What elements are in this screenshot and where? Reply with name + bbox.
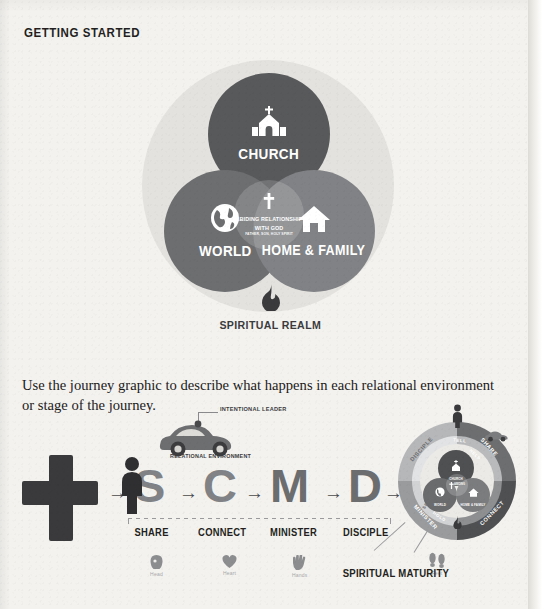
- venn-center-subtitle: FATHER, SON, HOLY SPIRIT: [245, 233, 293, 237]
- attribute-heart: Heart: [222, 555, 237, 576]
- wheel-inner-label-send: SEND: [421, 495, 433, 510]
- stage-scale-line: [128, 518, 390, 519]
- hands-icon: [293, 555, 306, 570]
- journey-wheel[interactable]: CHURCH WORLD HOME & FAMILY: [398, 422, 516, 540]
- car-icon: [156, 418, 246, 458]
- heart-icon: [222, 555, 237, 568]
- wheel-ring-labels: SHARE CONNECT MINISTER DISCIPLE TELL HEL…: [398, 422, 516, 540]
- spiritual-realm-group: SPIRITUAL REALM: [120, 283, 420, 331]
- arrow-2: →: [179, 482, 198, 504]
- page-edge: [528, 0, 542, 609]
- church-icon: [252, 106, 286, 140]
- venn-center-line1: ABIDING RELATIONSHIP: [236, 216, 303, 222]
- arrow-3: →: [245, 482, 264, 504]
- letter-m: M: [270, 462, 309, 509]
- wheel-label-disciple: DISCIPLE: [409, 436, 434, 463]
- attribute-label-hands: Hands: [292, 572, 307, 578]
- arrow-4: →: [324, 482, 343, 504]
- venn-label-church: CHURCH: [239, 145, 300, 162]
- stage-label-disciple: DISCIPLE: [343, 527, 388, 538]
- venn-label-spiritual-realm: SPIRITUAL REALM: [219, 319, 321, 331]
- car-group: INTENTIONAL LEADER RELATIONAL ENVIRONMEN…: [148, 406, 318, 464]
- attribute-label-heart: Heart: [223, 570, 236, 576]
- journey-cross-icon: [22, 455, 98, 541]
- page-title: GETTING STARTED: [24, 26, 140, 40]
- stage-label-minister: MINISTER: [270, 527, 317, 538]
- venn-diagram: CHURCH WORLD HOME & FAMILY: [120, 55, 420, 345]
- wheel-inner-label-tell: TELL: [453, 437, 467, 443]
- head-icon: [150, 555, 163, 569]
- attribute-hands: Hands: [292, 555, 307, 578]
- stage-label-share: SHARE: [134, 527, 168, 538]
- cross-icon: [263, 193, 275, 213]
- person-icon: [118, 456, 146, 518]
- venn-label-world: WORLD: [199, 242, 252, 259]
- wheel-inner-label-help: HELP: [468, 448, 482, 461]
- venn-center-line2: WITH GOD: [255, 225, 284, 231]
- intentional-leader-label: INTENTIONAL LEADER: [220, 406, 287, 412]
- wheel-label-share: SHARE: [480, 437, 500, 458]
- wheel-label-connect: CONNECT: [479, 499, 505, 526]
- letter-c: C: [203, 462, 237, 509]
- venn-center-abiding[interactable]: ABIDING RELATIONSHIP WITH GOD FATHER, SO…: [234, 180, 304, 250]
- flame-icon: [259, 283, 281, 315]
- attribute-label-head: Head: [150, 571, 163, 577]
- feet-icon: [428, 552, 446, 568]
- journey-graphic: INTENTIONAL LEADER RELATIONAL ENVIRONMEN…: [0, 400, 542, 605]
- letter-d: D: [348, 462, 382, 509]
- page-background: GETTING STARTED CHURCH: [0, 0, 542, 609]
- stage-label-connect: CONNECT: [198, 527, 246, 538]
- spiritual-maturity-label: SPIRITUAL MATURITY: [343, 568, 450, 579]
- attribute-head: Head: [150, 555, 163, 577]
